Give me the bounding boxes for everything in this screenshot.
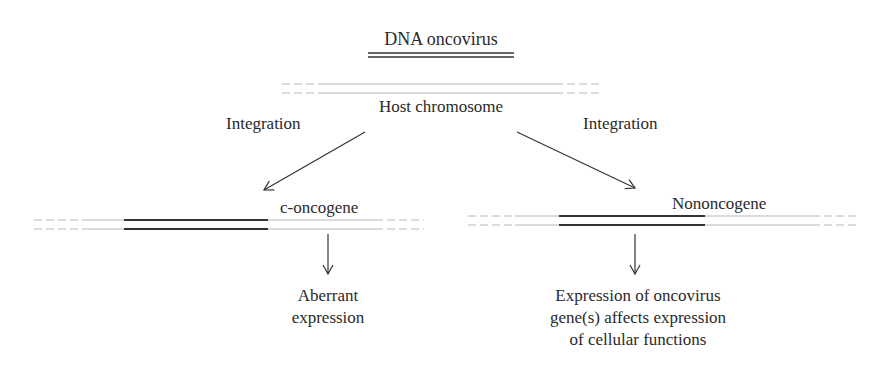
outcome-line: expression [292, 307, 365, 329]
c-oncogene-label: c-oncogene [280, 198, 358, 218]
left-chromosome-strands [34, 220, 424, 229]
integration-arrow-left [264, 132, 365, 190]
diagram-graphics [0, 0, 893, 369]
diagram-title: DNA oncovirus [384, 29, 498, 49]
outcome-line: Aberrant [292, 285, 365, 307]
host-chromosome-strands [282, 84, 602, 93]
left-outcome-text: Aberrant expression [292, 285, 365, 329]
c-oncogene-segment [124, 220, 268, 229]
right-outcome-text: Expression of oncovirus gene(s) affects … [550, 285, 726, 351]
nononcogene-segment [559, 216, 705, 225]
integration-label-left: Integration [226, 114, 301, 134]
right-chromosome-strands [468, 216, 860, 225]
nononcogene-label: Nononcogene [672, 194, 766, 214]
integration-arrow-right [517, 132, 635, 188]
outcome-line: of cellular functions [550, 329, 726, 351]
integration-label-right: Integration [583, 114, 658, 134]
outcome-line: gene(s) affects expression [550, 307, 726, 329]
title-double-underline [368, 53, 514, 57]
outcome-line: Expression of oncovirus [550, 285, 726, 307]
host-chromosome-label: Host chromosome [379, 97, 503, 117]
